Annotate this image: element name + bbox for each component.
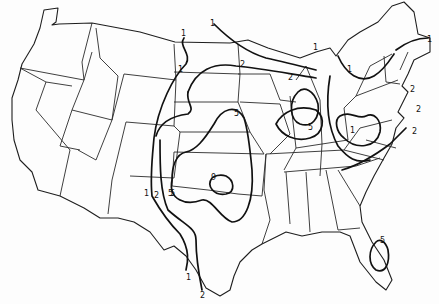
- contour-label: 1: [186, 273, 191, 282]
- isolines: [151, 24, 428, 290]
- contour-label: 2: [288, 73, 293, 82]
- contour-label: 1: [427, 35, 432, 44]
- contour-label: 2: [416, 105, 421, 114]
- contour-label: 1: [181, 29, 186, 38]
- contour-label: 1: [350, 126, 355, 135]
- contour-label: 1: [313, 43, 318, 52]
- contour-label: 5: [170, 189, 175, 198]
- contour-label: 9: [211, 173, 216, 182]
- contour-label: 5: [380, 236, 385, 245]
- contour-label: 2: [410, 85, 415, 94]
- contour-label: 2: [240, 60, 245, 69]
- us-contour-map: 1 1 1 2 1 2 5 5 5 9 1 2 5 1 2 1 1 2 2 2 …: [0, 0, 439, 304]
- contour-label: 1: [347, 65, 352, 74]
- contour-label: 1: [210, 19, 215, 28]
- contour-label: 5: [234, 109, 239, 118]
- contour-label: 1: [178, 65, 183, 74]
- contour-label: 5: [308, 123, 313, 132]
- contour-label: 2: [154, 191, 159, 200]
- contour-label: 2: [412, 127, 417, 136]
- map-canvas: 1 1 1 2 1 2 5 5 5 9 1 2 5 1 2 1 1 2 2 2 …: [0, 0, 439, 304]
- contour-label: 2: [200, 291, 205, 300]
- contour-label: 1: [144, 189, 149, 198]
